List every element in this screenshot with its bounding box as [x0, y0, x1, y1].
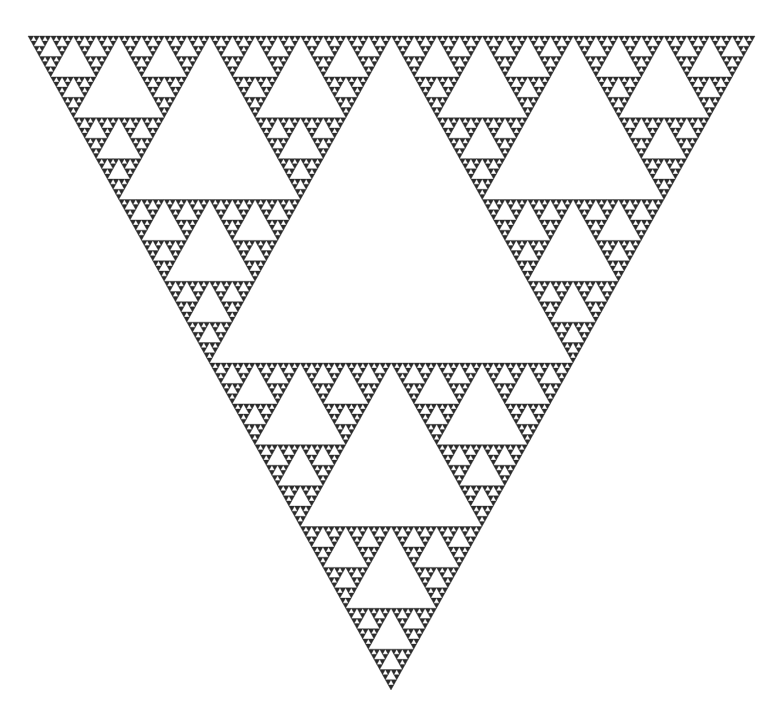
fractal-cell [181, 200, 187, 205]
fractal-cell [516, 97, 522, 102]
fractal-cell [425, 373, 431, 378]
fractal-cell [125, 36, 131, 41]
fractal-cell [227, 56, 233, 61]
fractal-cell [522, 445, 528, 450]
fractal-cell [562, 36, 568, 41]
fractal-cell [272, 404, 278, 409]
fractal-cell [201, 286, 207, 291]
fractal-cell [363, 394, 369, 399]
fractal-cell [369, 36, 375, 41]
fractal-cell [647, 56, 653, 61]
fractal-cell [644, 41, 650, 46]
fractal-cell [508, 368, 514, 373]
fractal-cell [318, 56, 324, 61]
fractal-cell [556, 36, 562, 41]
fractal-cell [454, 363, 460, 368]
fractal-cell [85, 36, 91, 41]
fractal-cell [329, 118, 335, 123]
fractal-cell [414, 67, 420, 72]
fractal-cell [261, 87, 267, 92]
fractal-cell [247, 82, 253, 87]
fractal-cell [187, 322, 193, 327]
fractal-cell [582, 297, 588, 302]
fractal-cell [295, 486, 301, 491]
fractal-cell [545, 56, 551, 61]
fractal-cell [173, 215, 179, 220]
fractal-cell [451, 143, 457, 148]
fractal-cell [252, 113, 258, 118]
fractal-cell [303, 532, 309, 537]
fractal-cell [425, 567, 431, 572]
fractal-cell [289, 506, 295, 511]
fractal-cell [244, 424, 250, 429]
fractal-cell [511, 200, 517, 205]
fractal-cell [402, 618, 408, 623]
fractal-cell [300, 363, 306, 368]
fractal-cell [337, 102, 343, 107]
fractal-cell [272, 118, 278, 123]
fractal-cell [494, 169, 500, 174]
fractal-cell [281, 123, 287, 128]
fractal-cell [360, 368, 366, 373]
fractal-cell [653, 118, 659, 123]
fractal-cell [79, 77, 85, 82]
fractal-cell [471, 373, 477, 378]
fractal-cell [198, 281, 204, 286]
fractal-cell [284, 138, 290, 143]
fractal-cell [627, 256, 633, 261]
fractal-cell [644, 225, 650, 230]
fractal-cell [644, 143, 650, 148]
fractal-cell [249, 435, 255, 440]
fractal-cell [459, 383, 465, 388]
fractal-cell [664, 118, 670, 123]
fractal-cell [443, 97, 449, 102]
fractal-cell [559, 215, 565, 220]
fractal-cell [425, 578, 431, 583]
fractal-cell [516, 240, 522, 245]
fractal-cell [255, 118, 261, 123]
fractal-cell [144, 41, 150, 46]
fractal-cell [434, 603, 440, 608]
fractal-cell [550, 200, 556, 205]
fractal-cell [232, 312, 238, 317]
fractal-cell [448, 445, 454, 450]
fractal-cell [448, 527, 454, 532]
fractal-cell [329, 547, 335, 552]
fractal-cell [212, 368, 218, 373]
fractal-cell [326, 450, 332, 455]
fractal-cell [505, 445, 511, 450]
fractal-cell [141, 240, 147, 245]
fractal-cell [536, 378, 542, 383]
fractal-cell [374, 56, 380, 61]
fractal-cell [508, 205, 514, 210]
fractal-cell [619, 77, 625, 82]
fractal-cell [193, 56, 199, 61]
fractal-cell [576, 348, 582, 353]
fractal-cell [553, 205, 559, 210]
fractal-cell [278, 445, 284, 450]
fractal-cell [519, 409, 525, 414]
fractal-cell [272, 36, 278, 41]
fractal-cell [280, 368, 286, 373]
fractal-cell [229, 317, 235, 322]
fractal-cell [647, 210, 653, 215]
fractal-cell [283, 159, 289, 164]
fractal-cell [73, 77, 79, 82]
fractal-cell [528, 271, 534, 276]
fractal-cell [474, 368, 480, 373]
fractal-cell [346, 598, 352, 603]
fractal-cell [360, 572, 366, 577]
fractal-cell [323, 118, 329, 123]
fractal-cell [334, 414, 340, 419]
fractal-cell [511, 56, 517, 61]
fractal-cell [164, 261, 170, 266]
fractal-cell [644, 205, 650, 210]
fractal-cell [621, 82, 627, 87]
fractal-cell [508, 41, 514, 46]
fractal-cell [451, 470, 457, 475]
fractal-cell [579, 332, 585, 337]
fractal-cell [221, 363, 227, 368]
fractal-cell [442, 414, 448, 419]
fractal-cell [442, 537, 448, 542]
fractal-cell [624, 251, 630, 256]
